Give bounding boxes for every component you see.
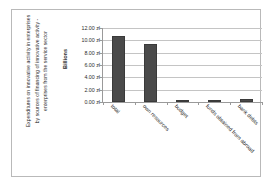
chart-title: Expenditures on innovative activity in e…	[14, 12, 60, 130]
y-axis-tick-label: 6.00 zł	[84, 62, 100, 68]
bar	[240, 99, 253, 102]
plot-area	[102, 28, 262, 103]
x-axis-category-labels: totalown resourcesbudgetfunds obtained f…	[102, 103, 261, 175]
bar-slot	[135, 28, 167, 102]
x-axis-category-label: budget	[173, 103, 189, 119]
x-axis-tick-mark	[262, 102, 263, 105]
y-axis-tick-label: 12.00 zł	[81, 25, 100, 31]
bar	[208, 100, 221, 102]
y-axis-tick-labels: 0.00 zł2.00 zł4.00 zł6.00 zł8.00 zł10.00…	[69, 24, 101, 104]
bar	[176, 100, 189, 102]
bar-slot	[230, 28, 262, 102]
y-axis-tick-label: 10.00 zł	[81, 37, 100, 43]
bar-series	[103, 28, 262, 102]
y-axis-tick-label: 8.00 zł	[84, 50, 100, 56]
y-axis-unit-text: Billions	[62, 49, 68, 69]
chart-title-text: Expenditures on innovative activity in e…	[24, 13, 50, 129]
x-axis-category-label: own resources	[141, 103, 170, 132]
bar-slot	[167, 28, 199, 102]
bar-slot	[103, 28, 135, 102]
chart-figure: Expenditures on innovative activity in e…	[11, 9, 261, 177]
y-axis-tick-label: 2.00 zł	[84, 87, 100, 93]
bar	[112, 36, 125, 102]
bar	[144, 44, 157, 102]
x-axis-category-label: total	[110, 103, 121, 114]
y-axis-tick-label: 0.00 zł	[84, 99, 100, 105]
bar-slot	[198, 28, 230, 102]
y-axis-tick-label: 4.00 zł	[84, 74, 100, 80]
x-axis-category-label: bank debts	[237, 103, 260, 126]
